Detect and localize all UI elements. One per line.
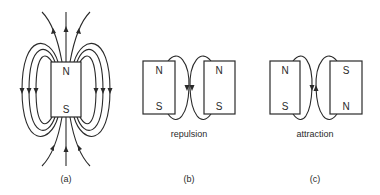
caption-attraction: attraction — [296, 129, 333, 139]
panel-label-a: (a) — [61, 174, 72, 184]
arrow-down-icon — [20, 88, 25, 94]
panel-a: N S (a) — [20, 12, 113, 184]
arrow-down-icon — [34, 88, 39, 94]
panel-label-b: (b) — [184, 174, 195, 184]
arrow-down-icon — [27, 88, 32, 94]
pole-label: N — [342, 101, 349, 112]
caption-repulsion: repulsion — [171, 129, 208, 139]
pole-label-south: S — [63, 104, 70, 115]
field-line — [70, 12, 90, 62]
arrow-up-icon — [76, 28, 81, 34]
arrow-down-icon — [310, 85, 315, 91]
arrow-up-icon — [51, 28, 56, 34]
arrow-up-icon — [314, 85, 319, 91]
arrow-up-icon — [64, 26, 69, 32]
arrow-up-icon — [64, 146, 69, 152]
arrow-down-icon — [108, 88, 113, 94]
pole-label: S — [343, 65, 350, 76]
panel-b: N S N S repulsion (b) — [143, 56, 235, 184]
arrow-down-icon — [101, 88, 106, 94]
panel-c: N S S N attraction (c) — [270, 56, 362, 184]
arrow-down-icon — [94, 88, 99, 94]
pole-label: S — [216, 101, 223, 112]
magnet-field-diagram: N S (a) N S N S repulsion (b) N S S N at… — [0, 0, 380, 195]
pole-label: N — [215, 65, 222, 76]
pole-label: S — [156, 101, 163, 112]
panel-label-c: (c) — [310, 174, 321, 184]
pole-label: N — [155, 65, 162, 76]
pole-label: S — [282, 101, 289, 112]
pole-label-north: N — [62, 66, 69, 77]
pole-label: N — [281, 65, 288, 76]
field-line — [42, 12, 62, 62]
